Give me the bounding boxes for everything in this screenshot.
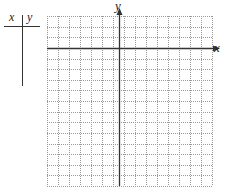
- coordinate-grid: [0, 0, 229, 192]
- x-axis-label: x: [214, 41, 220, 54]
- y-axis-label: y: [115, 0, 121, 12]
